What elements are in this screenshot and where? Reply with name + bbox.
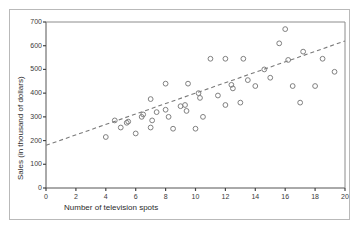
- data-point: [245, 78, 250, 83]
- data-point: [268, 75, 273, 80]
- data-point: [332, 69, 337, 74]
- x-tick-label: 8: [160, 193, 172, 200]
- data-point: [148, 97, 153, 102]
- x-tick-label: 10: [190, 193, 202, 200]
- data-point: [201, 114, 206, 119]
- y-tick-label: 700: [22, 18, 42, 25]
- data-point: [186, 81, 191, 86]
- x-tick-label: 18: [309, 193, 321, 200]
- x-tick-label: 12: [219, 193, 231, 200]
- y-tick-label: 600: [22, 42, 42, 49]
- y-tick-label: 300: [22, 113, 42, 120]
- data-point: [320, 56, 325, 61]
- trend-line-segment: [46, 41, 345, 145]
- data-point: [171, 126, 176, 131]
- y-tick-label: 100: [22, 160, 42, 167]
- data-point: [198, 95, 203, 100]
- y-tick-label: 400: [22, 89, 42, 96]
- data-point: [208, 56, 213, 61]
- data-point: [118, 125, 123, 130]
- x-tick-label: 4: [100, 193, 112, 200]
- chart-figure: 02468101214161820 0100200300400500600700…: [0, 0, 359, 229]
- data-point: [166, 114, 171, 119]
- x-tick-label: 0: [40, 193, 52, 200]
- data-point: [133, 131, 138, 136]
- data-point: [301, 49, 306, 54]
- data-point: [277, 41, 282, 46]
- data-point: [148, 125, 153, 130]
- data-point: [298, 100, 303, 105]
- y-tick-label: 500: [22, 65, 42, 72]
- data-point: [163, 81, 168, 86]
- scatter-plot-canvas: [0, 0, 359, 229]
- data-point: [238, 100, 243, 105]
- x-tick-label: 14: [249, 193, 261, 200]
- data-point: [196, 91, 201, 96]
- y-axis-title: Sales (in thousand of dollars): [16, 76, 25, 180]
- trend-line: [46, 41, 345, 145]
- x-tick-label: 6: [130, 193, 142, 200]
- data-point: [150, 118, 155, 123]
- data-point: [223, 103, 228, 108]
- x-tick-label: 16: [279, 193, 291, 200]
- x-axis-title: Number of television spots: [64, 203, 158, 212]
- data-point: [241, 56, 246, 61]
- data-point: [223, 56, 228, 61]
- data-point: [283, 27, 288, 32]
- data-point: [313, 84, 318, 89]
- y-tick-label: 0: [22, 184, 42, 191]
- data-point: [193, 126, 198, 131]
- data-point: [290, 84, 295, 89]
- data-point: [163, 107, 168, 112]
- data-point: [286, 58, 291, 63]
- data-point: [253, 84, 258, 89]
- data-points: [103, 27, 337, 140]
- data-point: [183, 103, 188, 108]
- x-tick-label: 20: [339, 193, 351, 200]
- data-point: [154, 110, 159, 115]
- tick-marks: [43, 22, 345, 191]
- data-point: [216, 93, 221, 98]
- data-point: [103, 135, 108, 140]
- x-tick-label: 2: [70, 193, 82, 200]
- data-point: [112, 118, 117, 123]
- y-tick-label: 200: [22, 137, 42, 144]
- data-point: [184, 109, 189, 114]
